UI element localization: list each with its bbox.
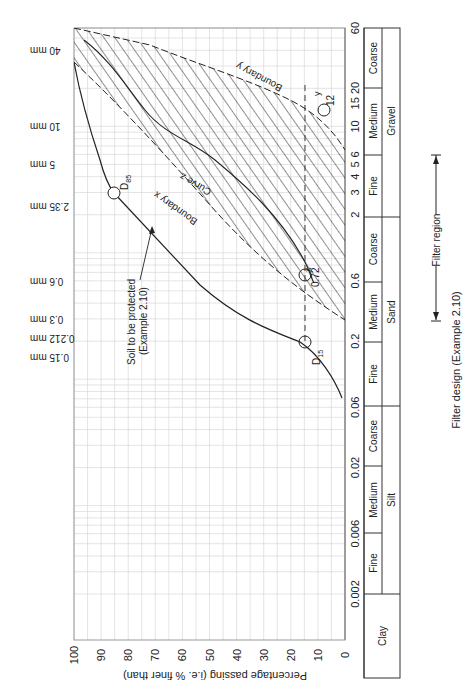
size-tick-labels: 6015 2010654320.60.20.060.020.0060.002 [349,22,361,608]
percent-tick-70: 70 [149,649,161,661]
size-tick-5: 5 [349,161,361,167]
size-tick-2: 2 [349,212,361,218]
class-silt-medium: Medium [368,482,379,518]
percent-tick-0: 0 [339,652,351,658]
class-sand: Sand [386,300,397,323]
arrow-up-icon [433,156,439,164]
sieve-label-0.212-mm: 0.212 mm [30,333,74,344]
percent-tick-30: 30 [258,649,270,661]
size-tick-0.06: 0.06 [349,397,361,418]
filter-region-label: Filter region [431,214,442,267]
percent-tick-60: 60 [176,649,188,661]
percent-tick-40: 40 [231,649,243,661]
soil-label-line1: Soil to be protected [126,279,137,365]
size-tick-6: 6 [349,151,361,157]
grading-chart: Soil to be protected (Example 2.10) Boun… [0,0,473,698]
class-clay: Clay [377,626,388,646]
class-sand-medium: Medium [368,294,379,330]
percent-tick-50: 50 [204,649,216,661]
size-tick-4: 4 [349,174,361,180]
sieve-label-5-mm: 5 mm [30,159,55,170]
class-gravel-medium: Medium [368,103,379,139]
class-sand-fine: Fine [368,364,379,384]
arrowhead-icon [149,226,155,234]
size-tick-10: 10 [349,120,361,132]
sieve-label-0.3-mm: 0.3 mm [30,314,63,325]
class-silt-coarse: Coarse [368,419,379,452]
class-silt: Silt [386,493,397,507]
arrow-down-icon [433,312,439,320]
value-12-label: 12 [325,94,336,106]
percent-tick-20: 20 [285,649,297,661]
sieve-label-10-mm: 10 mm [30,121,61,132]
size-tick-3: 3 [349,189,361,195]
percent-tick-80: 80 [122,649,134,661]
class-silt-fine: Fine [368,553,379,573]
d85-label: D85 [119,175,132,190]
percent-tick-100: 100 [68,646,80,664]
size-tick-15-20: 15 20 [349,82,361,110]
size-tick-0.2: 0.2 [349,334,361,349]
class-gravel-coarse: Coarse [368,41,379,74]
percent-tick-10: 10 [312,649,324,661]
sieve-labels: 40 mm10 mm5 mm2.35 mm0.6 mm0.3 mm0.212 m… [30,45,74,363]
sieve-label-0.6-mm: 0.6 mm [30,276,63,287]
size-tick-0.006: 0.006 [349,520,361,548]
marker-x-label: x [303,267,313,272]
filter-region-indicator: Filter region [431,155,442,321]
y-axis-title: Percentage passing (i.e. % finer than) [123,670,307,682]
soil-label-line2: (Example 2.10) [138,287,149,355]
size-tick-0.6: 0.6 [349,273,361,288]
sieve-label-40-mm: 40 mm [30,45,61,56]
size-tick-60: 60 [349,22,361,34]
figure-caption: Filter design (Example 2.10) [450,291,462,429]
sieve-label-0.15-mm: 0.15 mm [30,352,69,363]
size-tick-0.002: 0.002 [349,580,361,608]
sieve-label-2.35-mm: 2.35 mm [30,201,69,212]
class-gravel: Gravel [386,106,397,135]
marker-y-label: y [312,91,322,96]
class-sand-coarse: Coarse [368,232,379,265]
boundary-x-label: Boundary x [151,189,199,227]
class-gravel-fine: Fine [368,176,379,196]
percent-tick-90: 90 [95,649,107,661]
percentage-tick-labels: 1009080706050403020100 [68,646,351,664]
size-tick-0.02: 0.02 [349,457,361,478]
